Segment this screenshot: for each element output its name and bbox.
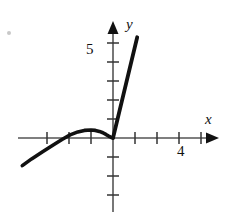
y-axis-label: y: [126, 17, 133, 32]
y-axis-arrowhead: [108, 21, 119, 34]
curve-right-branch: [113, 37, 137, 138]
y-tick-label-5: 5: [86, 42, 94, 57]
curve-left-branch: [22, 130, 113, 166]
stray-mark: [7, 31, 11, 35]
curve-group: [22, 37, 137, 165]
math-figure: y x 5 4: [0, 0, 225, 220]
x-axis-label: x: [205, 112, 212, 127]
x-tick-label-4: 4: [177, 144, 185, 159]
x-axis-arrowhead: [206, 133, 219, 144]
plot-canvas: [0, 0, 225, 220]
